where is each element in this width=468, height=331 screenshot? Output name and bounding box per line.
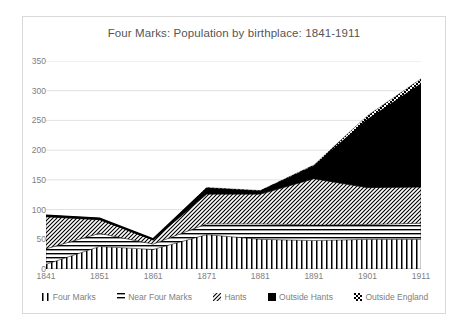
legend-label: Four Marks: [53, 292, 96, 302]
horizontal-lines-swatch: [117, 293, 125, 301]
vertical-lines-swatch: [42, 293, 50, 301]
checkered-swatch: [354, 293, 362, 301]
y-axis-tick-label: 200: [12, 145, 46, 155]
y-axis: 350300250200150100500: [6, 61, 46, 269]
x-axis-tick-label: 1891: [304, 271, 323, 281]
y-axis-tick-label: 100: [12, 205, 46, 215]
legend-item-near-four-marks[interactable]: Near Four Marks: [117, 292, 192, 302]
legend-label: Outside Hants: [279, 292, 333, 302]
legend-item-outside-england[interactable]: Outside England: [354, 292, 428, 302]
chart-title: Four Marks: Population by birthplace: 18…: [23, 27, 445, 39]
y-axis-tick-label: 50: [12, 234, 46, 244]
diagonal-hatch-swatch: [213, 293, 221, 301]
x-axis-tick-label: 1901: [358, 271, 377, 281]
legend-label: Hants: [224, 292, 246, 302]
y-axis-tick-label: 350: [12, 56, 46, 66]
x-axis: 18411851186118711881189119011911: [46, 271, 421, 287]
y-axis-tick-label: 150: [12, 175, 46, 185]
chart-frame: Four Marks: Population by birthplace: 18…: [22, 16, 446, 314]
solid-black-swatch: [268, 293, 276, 301]
legend-label: Outside England: [365, 292, 428, 302]
x-axis-tick-label: 1841: [37, 271, 56, 281]
plot-area: 350300250200150100500: [46, 61, 421, 269]
legend-item-outside-hants[interactable]: Outside Hants: [268, 292, 333, 302]
x-axis-tick-label: 1851: [90, 271, 109, 281]
legend-item-hants[interactable]: Hants: [213, 292, 246, 302]
x-axis-tick-label: 1911: [412, 271, 430, 281]
stacked-area-plot: [46, 61, 421, 269]
x-axis-tick-label: 1861: [144, 271, 163, 281]
legend-label: Near Four Marks: [128, 292, 192, 302]
y-axis-tick-label: 250: [12, 115, 46, 125]
legend-item-four-marks[interactable]: Four Marks: [42, 292, 96, 302]
x-axis-tick-label: 1871: [197, 271, 216, 281]
y-axis-tick-label: 300: [12, 86, 46, 96]
x-axis-tick-label: 1881: [251, 271, 270, 281]
chart-legend: Four MarksNear Four MarksHantsOutside Ha…: [31, 289, 439, 305]
series-layers: [46, 79, 421, 269]
